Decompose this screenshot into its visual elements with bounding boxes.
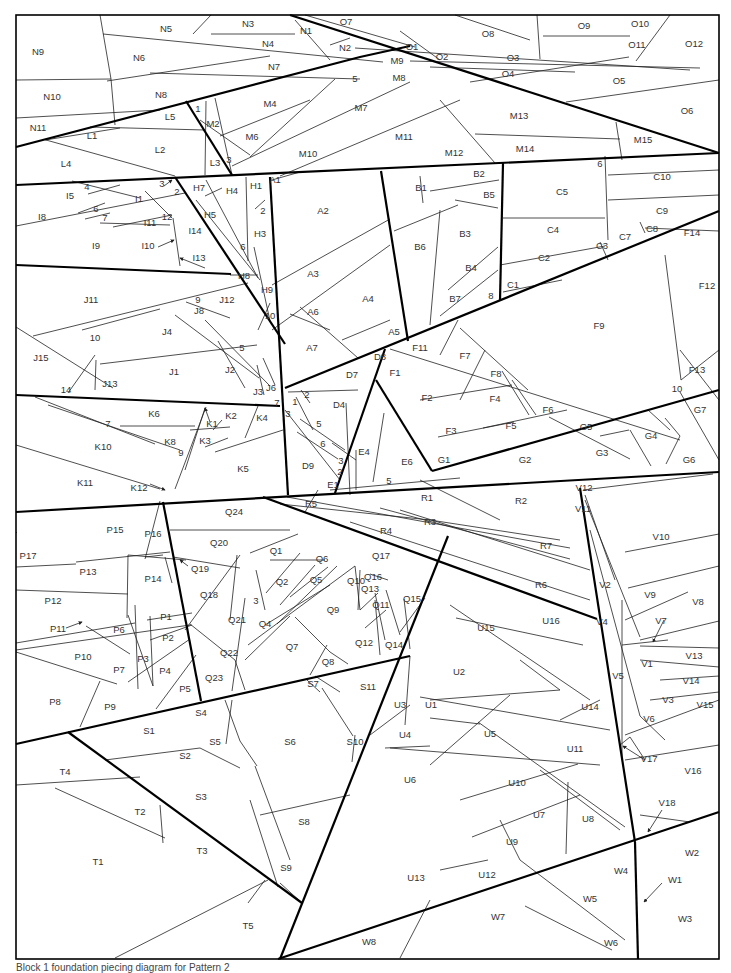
piece-label: V13 [686, 650, 703, 661]
piece-label: C5 [556, 186, 568, 197]
section-boundary-line [16, 46, 410, 147]
piece-label: C8 [646, 223, 658, 234]
piece-label: P9 [104, 701, 116, 712]
piece-label: Q20 [210, 537, 228, 548]
seam-line [640, 646, 719, 648]
piece-label: F13 [689, 364, 705, 375]
seam-line [512, 380, 536, 415]
piece-label: M6 [245, 131, 258, 142]
section-boundary-line [500, 163, 503, 301]
piece-label: 6 [93, 203, 98, 214]
piece-label: 4 [84, 181, 89, 192]
piece-label: 3 [226, 154, 231, 165]
piece-label: O8 [482, 28, 495, 39]
seam-line [430, 210, 440, 325]
piece-label: Q19 [191, 563, 209, 574]
piece-label: D8 [374, 351, 386, 362]
seam-line [680, 392, 719, 460]
piece-label: P8 [49, 696, 61, 707]
piece-label: L3 [210, 157, 221, 168]
piece-label: 12 [162, 211, 173, 222]
piece-label: O5 [613, 75, 626, 86]
piece-label: W3 [678, 913, 692, 924]
piece-label: I13 [192, 252, 205, 263]
piece-label: K6 [148, 408, 160, 419]
piece-label: Q24 [225, 506, 243, 517]
piece-label: V5 [612, 670, 624, 681]
piece-label: V9 [644, 589, 656, 600]
piece-label: B3 [459, 228, 471, 239]
seam-line [240, 741, 257, 766]
seam-line [16, 564, 76, 567]
piece-label: V16 [685, 765, 702, 776]
seam-line [100, 15, 111, 79]
piece-label: G6 [683, 454, 696, 465]
seam-line [322, 688, 353, 736]
seam-line [100, 223, 170, 225]
piece-label: K8 [164, 436, 176, 447]
piece-label: M13 [510, 110, 528, 121]
piece-label: M10 [299, 148, 317, 159]
piece-label: I1 [135, 193, 143, 204]
piece-label: O10 [631, 18, 649, 29]
piece-label: V8 [692, 596, 704, 607]
seam-line [625, 534, 719, 552]
seam-line [55, 788, 165, 838]
seam-line [226, 700, 232, 744]
piece-label: P14 [145, 573, 162, 584]
piece-labels: N9N5N3N1N4N2N6N7N10N8N11O7O1O2O8O3O4O9O1… [20, 16, 716, 948]
piece-label: R3 [424, 516, 436, 527]
piece-label: 6 [240, 241, 245, 252]
piece-label: S4 [195, 707, 207, 718]
pointer-arrow-icon [644, 883, 662, 902]
piece-label: F2 [421, 392, 432, 403]
seam-line [250, 79, 335, 157]
seam-line [600, 430, 629, 436]
seam-line [440, 320, 458, 355]
piece-label: N6 [133, 52, 145, 63]
section-boundary-line [381, 171, 408, 341]
piece-label: Q16 [364, 571, 382, 582]
piece-label: J4 [162, 326, 172, 337]
seam-line [475, 134, 620, 139]
piece-label: V10 [653, 531, 670, 542]
section-boundary-line [278, 812, 719, 959]
piece-label: O2 [436, 51, 449, 62]
piece-label: V18 [659, 797, 676, 808]
seam-line [280, 100, 460, 176]
piece-label: Q4 [259, 618, 272, 629]
piece-label: M9 [390, 55, 403, 66]
piece-label: M4 [263, 98, 276, 109]
seam-line [16, 590, 128, 594]
piece-label: 7 [102, 212, 107, 223]
piece-label: I10 [141, 240, 154, 251]
piece-label: C10 [653, 171, 670, 182]
seam-line [272, 245, 390, 330]
piece-label: N7 [268, 61, 280, 72]
piece-label: G7 [694, 404, 707, 415]
piece-label: Q15 [403, 593, 421, 604]
piece-label: K1 [206, 418, 218, 429]
piece-label: W6 [604, 937, 618, 948]
piece-label: M15 [634, 134, 652, 145]
seam-line [297, 432, 338, 459]
seam-line [205, 101, 206, 175]
piece-label: O7 [340, 16, 353, 27]
piece-label: N5 [160, 23, 172, 34]
seam-line [608, 195, 719, 200]
piece-label: R2 [515, 495, 527, 506]
seam-line [616, 122, 622, 160]
section-boundary-line [16, 472, 719, 512]
piece-label: O4 [502, 68, 515, 79]
piece-label: R6 [535, 579, 547, 590]
piece-label: S6 [284, 736, 296, 747]
piece-label: 14 [61, 384, 72, 395]
piece-label: K2 [225, 410, 237, 421]
seam-line [235, 660, 245, 690]
seam-line [478, 722, 625, 827]
section-boundary-line [16, 656, 410, 744]
section-boundary-line [580, 488, 635, 842]
piece-label: 6 [597, 158, 602, 169]
piece-label: W2 [685, 847, 699, 858]
seam-line [430, 690, 560, 700]
